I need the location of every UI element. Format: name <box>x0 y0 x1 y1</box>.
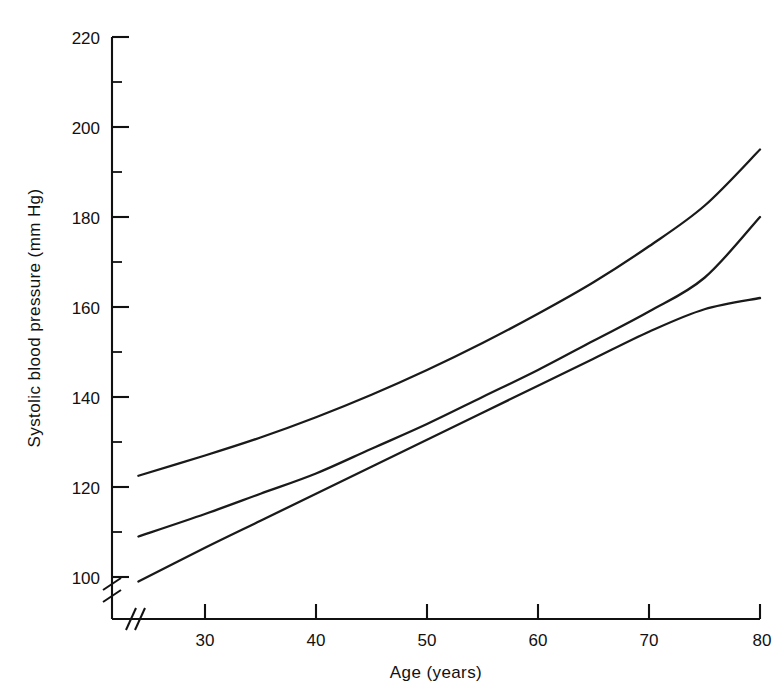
y-axis-title: Systolic blood pressure (mm Hg) <box>25 189 44 448</box>
x-tick-label-40: 40 <box>307 631 326 650</box>
y-tick-label-200: 200 <box>72 119 100 138</box>
x-tick-label-80: 80 <box>753 631 772 650</box>
x-tick-label-60: 60 <box>529 631 548 650</box>
x-tick-label-30: 30 <box>196 631 215 650</box>
curve-lower-band <box>138 298 760 582</box>
figure-container: 220 200 180 160 140 120 100 30 40 50 60 … <box>0 0 784 694</box>
y-tick-label-120: 120 <box>72 479 100 498</box>
systolic-blood-pressure-vs-age-chart: 220 200 180 160 140 120 100 30 40 50 60 … <box>0 0 784 694</box>
curve-group <box>138 150 760 582</box>
y-tick-label-160: 160 <box>72 299 100 318</box>
x-axis-major-ticks <box>205 604 760 619</box>
y-tick-label-180: 180 <box>72 209 100 228</box>
y-axis-major-ticks <box>112 37 129 577</box>
y-tick-label-220: 220 <box>72 29 100 48</box>
x-axis-title: Age (years) <box>390 663 482 682</box>
curve-middle <box>138 217 760 537</box>
x-tick-label-70: 70 <box>640 631 659 650</box>
y-tick-label-100: 100 <box>72 569 100 588</box>
x-tick-label-50: 50 <box>418 631 437 650</box>
y-tick-label-140: 140 <box>72 389 100 408</box>
curve-upper-band <box>138 150 760 476</box>
